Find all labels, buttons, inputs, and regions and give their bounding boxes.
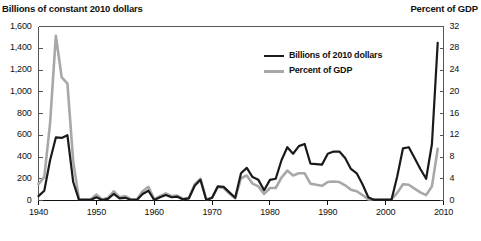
y-tick-label-left: 0: [0, 195, 32, 205]
y-tick-label-left: 200: [0, 173, 32, 183]
y-tick-label-right: 32: [450, 21, 460, 31]
y-tick-label-right: 4: [450, 173, 455, 183]
y-tick-label-left: 1,000: [0, 86, 32, 96]
y-tick-label-right: 24: [450, 64, 460, 74]
y-tick-label-left: 1,400: [0, 42, 32, 52]
y-tick-label-right: 12: [450, 129, 460, 139]
legend-swatches: [264, 56, 284, 71]
x-tick-label: 1990: [303, 207, 353, 217]
y-tick-label-right: 28: [450, 42, 460, 52]
legend-label-0: Billions of 2010 dollars: [289, 50, 382, 60]
y-tick-label-left: 400: [0, 151, 32, 161]
y-tick-label-left: 1,200: [0, 64, 32, 74]
x-tick-label: 1950: [71, 207, 121, 217]
y-tick-label-left: 600: [0, 129, 32, 139]
x-tick-label: 2010: [419, 207, 469, 217]
series-line-billions: [39, 43, 438, 200]
y-tick-label-right: 8: [450, 151, 455, 161]
x-tick-label: 1960: [129, 207, 179, 217]
series-line-percent: [39, 36, 438, 200]
x-tick-label: 1980: [245, 207, 295, 217]
y-tick-label-left: 1,600: [0, 21, 32, 31]
y-tick-label-right: 20: [450, 86, 460, 96]
series-paths: [39, 36, 438, 200]
chart-container: Billions of constant 2010 dollars Percen…: [0, 0, 481, 241]
x-tick-label: 1970: [187, 207, 237, 217]
y-tick-label-right: 0: [450, 195, 455, 205]
y-tick-label-right: 16: [450, 108, 460, 118]
x-tick-label: 1940: [14, 207, 64, 217]
x-tick-label: 2000: [361, 207, 411, 217]
legend-label-1: Percent of GDP: [289, 65, 352, 75]
plot-area: [0, 0, 481, 241]
y-tick-label-left: 800: [0, 108, 32, 118]
